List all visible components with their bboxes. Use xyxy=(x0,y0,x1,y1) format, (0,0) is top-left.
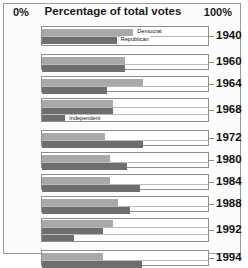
bar-republican xyxy=(42,87,107,94)
year-tick xyxy=(209,138,214,139)
chart-title: Percentage of total votes xyxy=(42,5,184,17)
bar-track xyxy=(41,218,209,242)
annotation-independent: Independent xyxy=(68,115,101,121)
year-tick xyxy=(209,204,214,205)
bar-republican xyxy=(42,261,142,268)
chart-plot-area: DemocratRepublican194019601964Independen… xyxy=(4,23,240,255)
bar-separator xyxy=(42,227,208,228)
bar-separator xyxy=(42,162,208,163)
bar-track: Independent xyxy=(41,98,209,122)
year-tick xyxy=(209,230,214,231)
bar-track xyxy=(41,250,209,266)
year-tick xyxy=(209,84,214,85)
year-label: 1968 xyxy=(216,103,242,115)
year-tick xyxy=(209,258,214,259)
bar-republican xyxy=(42,107,113,114)
bar-separator xyxy=(42,64,208,65)
bar-track xyxy=(41,130,209,146)
bar-separator xyxy=(42,107,208,108)
bar-separator xyxy=(42,114,208,115)
year-label: 1988 xyxy=(216,197,242,209)
bar-republican xyxy=(42,227,103,234)
bar-republican xyxy=(42,163,127,170)
bar-republican xyxy=(42,37,117,44)
year-label: 1972 xyxy=(216,131,242,143)
bar-track: DemocratRepublican xyxy=(41,26,209,46)
bar-republican xyxy=(42,207,130,214)
year-tick xyxy=(209,62,214,63)
year-tick xyxy=(209,182,214,183)
year-label: 1984 xyxy=(216,175,242,187)
bar-republican xyxy=(42,141,143,148)
year-label: 1940 xyxy=(216,29,242,41)
bar-track xyxy=(41,152,209,168)
annotation-democrat: Democrat xyxy=(136,28,162,34)
axis-label-max: 100% xyxy=(204,6,232,18)
bar-republican xyxy=(42,185,140,192)
bar-track xyxy=(41,76,209,92)
year-tick xyxy=(209,160,214,161)
year-label: 1964 xyxy=(216,77,242,89)
bar-track xyxy=(41,196,209,212)
year-tick xyxy=(209,110,214,111)
axis-label-min: 0% xyxy=(13,6,29,18)
bar-track xyxy=(41,54,209,70)
bar-republican xyxy=(42,65,125,72)
year-label: 1960 xyxy=(216,55,242,67)
bar-separator xyxy=(42,234,208,235)
year-label: 1994 xyxy=(216,251,242,263)
bar-separator xyxy=(42,140,208,141)
chart-frame: 0% Percentage of total votes 100% Democr… xyxy=(3,3,241,254)
chart-header: 0% Percentage of total votes 100% xyxy=(4,4,240,23)
bar-separator xyxy=(42,206,208,207)
year-tick xyxy=(209,36,214,37)
bar-separator xyxy=(42,260,208,261)
year-label: 1980 xyxy=(216,153,242,165)
annotation-republican: Republican xyxy=(120,36,150,42)
bar-track xyxy=(41,174,209,190)
bar-separator xyxy=(42,86,208,87)
bar-separator xyxy=(42,184,208,185)
year-label: 1992 xyxy=(216,223,242,235)
